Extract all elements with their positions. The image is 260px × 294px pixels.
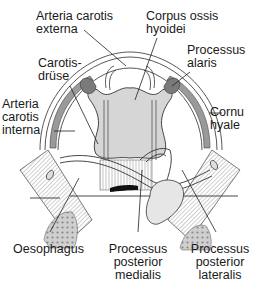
label-cornu-hyale: Cornu hyale — [210, 106, 244, 132]
label-arteria-carotis-interna: Arteria carotis interna — [2, 98, 40, 137]
label-line: hyale — [210, 119, 244, 132]
label-line: medialis — [104, 269, 172, 282]
anterior-processes — [105, 66, 154, 90]
label-line: drüse — [38, 70, 82, 83]
corpus-ossis-hyoidei — [88, 88, 172, 159]
label-processus-alaris: Processus alaris — [187, 44, 245, 70]
label-line: lateralis — [186, 269, 254, 282]
label-line: interna — [2, 124, 40, 137]
label-line: hyoidei — [146, 23, 218, 36]
anatomical-figure: Arteria carotis externa Corpus ossis hyo… — [0, 0, 260, 294]
label-arteria-carotis-externa: Arteria carotis externa — [36, 10, 113, 36]
label-line: alaris — [187, 57, 245, 70]
label-processus-posterior-medialis: Processus posterior medialis — [104, 243, 172, 282]
label-processus-posterior-lateralis: Processus posterior lateralis — [186, 243, 254, 282]
label-carotisdruese: Carotis- drüse — [38, 57, 82, 83]
label-line: Oesophagus — [13, 243, 84, 256]
label-line: externa — [36, 23, 113, 36]
label-oesophagus: Oesophagus — [13, 243, 84, 256]
label-corpus-ossis-hyoidei: Corpus ossis hyoidei — [146, 10, 218, 36]
